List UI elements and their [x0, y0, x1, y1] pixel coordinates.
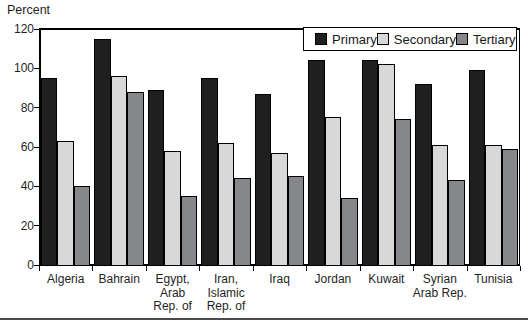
x-tick-0: [39, 266, 40, 271]
x-label-bahrain: Bahrain: [83, 273, 155, 287]
x-tick-4: [253, 266, 254, 271]
x-tick-8: [467, 266, 468, 271]
x-tick-6: [360, 266, 361, 271]
x-label-iran-islamic-rep-of: Iran, Islamic Rep. of: [190, 273, 262, 314]
x-label-algeria: Algeria: [30, 273, 102, 287]
secondary-swatch-icon: [377, 33, 389, 45]
tertiary-swatch-icon: [456, 33, 468, 45]
legend-item-tertiary: Tertiary: [456, 32, 516, 47]
x-label-iraq: Iraq: [244, 273, 316, 287]
y-tick-label-120: 120: [0, 22, 34, 36]
x-label-egypt-arab-rep-of: Egypt, Arab Rep. of: [137, 273, 209, 314]
y-tick-label-100: 100: [0, 61, 34, 75]
x-tick-9: [520, 266, 521, 271]
x-label-kuwait: Kuwait: [350, 273, 422, 287]
x-tick-1: [92, 266, 93, 271]
legend-label-secondary: Secondary: [394, 32, 456, 47]
y-axis-title: Percent: [7, 3, 50, 17]
y-tick-label-60: 60: [0, 140, 34, 154]
bottom-rule: [0, 318, 528, 320]
plot-area: [39, 28, 520, 266]
x-label-jordan: Jordan: [297, 273, 369, 287]
y-tick-label-80: 80: [0, 101, 34, 115]
x-label-tunisia: Tunisia: [457, 273, 528, 287]
legend: Primary Secondary Tertiary: [303, 27, 517, 51]
x-tick-5: [306, 266, 307, 271]
primary-swatch-icon: [315, 33, 327, 45]
x-tick-7: [413, 266, 414, 271]
legend-item-secondary: Secondary: [377, 32, 456, 47]
legend-label-tertiary: Tertiary: [473, 32, 516, 47]
x-label-syrian-arab-rep: Syrian Arab Rep.: [404, 273, 476, 300]
y-tick-label-0: 0: [0, 258, 34, 272]
x-tick-3: [199, 266, 200, 271]
y-tick-label-20: 20: [0, 219, 34, 233]
y-tick-label-40: 40: [0, 179, 34, 193]
x-tick-2: [146, 266, 147, 271]
legend-item-primary: Primary: [315, 32, 377, 47]
legend-label-primary: Primary: [332, 32, 377, 47]
enrollment-bar-chart: Percent 020406080100120 AlgeriaBahrainEg…: [0, 0, 528, 322]
